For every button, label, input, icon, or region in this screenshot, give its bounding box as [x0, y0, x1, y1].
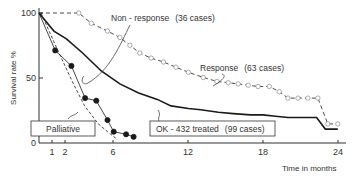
series-line-0	[39, 13, 338, 124]
data-point-marker	[53, 48, 58, 53]
survival-chart: 100 50 0 1 2 6 12 18 24 Time in months S…	[0, 0, 360, 179]
data-point-marker	[174, 65, 178, 69]
data-point-marker	[149, 56, 153, 60]
data-point-marker	[77, 11, 81, 15]
ok432-leader	[158, 110, 160, 122]
data-point-marker	[161, 60, 165, 64]
data-point-marker	[83, 96, 88, 101]
data-point-marker	[94, 98, 99, 103]
data-point-marker	[128, 43, 132, 47]
y-axis-label: Survival rate %	[9, 51, 18, 105]
data-point-marker	[89, 21, 93, 25]
data-point-marker	[226, 81, 230, 85]
data-point-marker	[336, 122, 340, 126]
x-tick-18: 18	[258, 147, 268, 157]
x-tick-6: 6	[110, 147, 115, 157]
series-line-3	[39, 13, 134, 137]
data-point-marker	[118, 35, 122, 39]
x-axis-label: Time in months	[282, 164, 336, 173]
data-point-marker	[138, 51, 142, 55]
data-point-marker	[306, 96, 310, 100]
y-tick-100: 100	[21, 8, 36, 18]
data-point-marker	[246, 83, 250, 87]
label-nonresponse: Non - response(36 cases)	[111, 13, 215, 23]
data-point-marker	[277, 90, 281, 94]
data-point-marker	[105, 118, 110, 123]
label-ok432: OK - 432 treated(99 cases)	[156, 124, 265, 134]
x-tick-12: 12	[183, 147, 193, 157]
y-tick-50: 50	[26, 73, 36, 83]
data-point-marker	[267, 84, 271, 88]
label-response: Response(63 cases)	[200, 63, 284, 73]
data-point-marker	[69, 63, 74, 68]
data-point-marker	[201, 75, 205, 79]
x-tick-1: 1	[49, 147, 54, 157]
y-tick-0: 0	[31, 138, 36, 148]
series-layer	[39, 11, 340, 140]
palliative-leader	[68, 112, 78, 119]
series-line-2	[41, 13, 116, 138]
data-point-marker	[111, 129, 116, 134]
data-point-marker	[296, 96, 300, 100]
data-point-marker	[286, 96, 290, 100]
data-point-marker	[131, 134, 136, 139]
data-point-marker	[236, 82, 240, 86]
data-point-marker	[316, 96, 320, 100]
x-tick-24: 24	[333, 147, 343, 157]
data-point-marker	[105, 29, 109, 33]
data-point-marker	[256, 84, 260, 88]
x-tick-2: 2	[62, 147, 67, 157]
data-point-marker	[186, 70, 190, 74]
data-point-marker	[326, 122, 330, 126]
data-point-marker	[124, 132, 129, 137]
label-palliative: Palliative	[46, 124, 80, 134]
